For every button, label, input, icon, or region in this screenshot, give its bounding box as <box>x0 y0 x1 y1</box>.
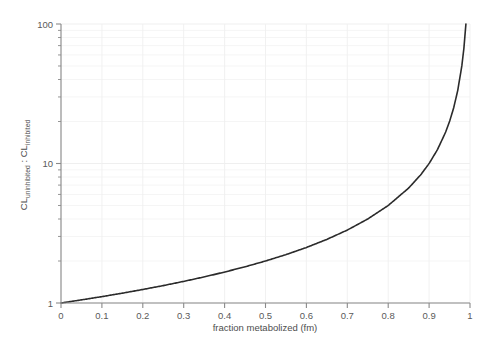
chart-figure: 110100 00.10.20.30.40.50.60.70.80.91 fra… <box>0 0 489 346</box>
x-tick-label: 0 <box>58 310 63 321</box>
plot-area <box>61 24 470 303</box>
x-axis-title: fraction metabolized (fm) <box>213 322 318 333</box>
x-tick-label: 1 <box>467 310 472 321</box>
x-tick-label: 0.4 <box>218 310 231 321</box>
x-tick-label: 0.6 <box>300 310 313 321</box>
x-tick-label: 0.7 <box>341 310 354 321</box>
x-tick-label: 0.2 <box>136 310 149 321</box>
x-tick-label: 0.8 <box>382 310 395 321</box>
y-tick-label: 10 <box>42 158 53 169</box>
y-axis-title-sub-inhibited: inhibited <box>24 120 31 146</box>
y-axis-title-sub-uninhibited: uninhibited <box>24 165 31 198</box>
y-tick-label: 100 <box>37 19 53 30</box>
y-tick-label: 1 <box>48 298 53 309</box>
x-tick-label: 0.3 <box>177 310 190 321</box>
x-tick-label: 0.1 <box>95 310 108 321</box>
y-axis-title-separator: : <box>18 157 29 165</box>
y-axis-title-cl-inhibited: CL <box>18 145 29 157</box>
x-tick-label: 0.5 <box>259 310 272 321</box>
y-axis-title-cl-uninhibited: CL <box>18 198 29 210</box>
x-tick-label: 0.9 <box>422 310 435 321</box>
